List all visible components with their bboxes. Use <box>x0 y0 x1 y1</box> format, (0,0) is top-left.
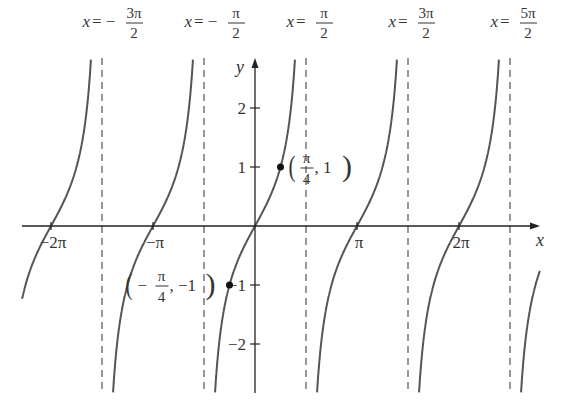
point-label: (π4, 1) <box>289 149 353 187</box>
asymptote-label-num: 5π <box>520 5 536 21</box>
asymptote-label: x = π2 <box>285 5 333 41</box>
svg-text:−: − <box>137 276 147 295</box>
asymptote-label-lhs: x <box>285 12 294 31</box>
svg-text:): ) <box>205 267 215 301</box>
svg-text:π: π <box>303 150 311 166</box>
asymptote-label-num: 3π <box>126 5 142 21</box>
svg-text:, −1: , −1 <box>169 276 196 295</box>
svg-text:(: ( <box>125 267 132 301</box>
asymptote-label-den: 2 <box>422 25 430 41</box>
tangent-branch <box>521 271 540 393</box>
asymptote-label: x = 5π2 <box>489 5 537 41</box>
asymptote-label-den: 2 <box>232 25 240 41</box>
asymptote-label-den: 2 <box>524 25 532 41</box>
y-axis-label: y <box>234 57 244 77</box>
y-tick-label: 2 <box>238 99 247 118</box>
x-tick-label: 2π <box>452 233 470 252</box>
y-axis-arrow-icon <box>252 58 259 68</box>
svg-text:π: π <box>158 268 166 284</box>
labels: x = −3π2x = −π2x = π2x = 3π2x = 5π2−2π−π… <box>40 5 544 354</box>
x-tick-label: π <box>355 233 364 252</box>
svg-text:=: = <box>500 12 510 31</box>
x-axis-arrow-icon <box>530 223 540 230</box>
svg-text:=: = <box>398 12 408 31</box>
svg-text:): ) <box>342 149 352 183</box>
svg-text:(: ( <box>289 149 296 183</box>
tangent-graph: x = −3π2x = −π2x = π2x = 3π2x = 5π2−2π−π… <box>0 0 562 410</box>
asymptote-label-num: 3π <box>418 5 434 21</box>
svg-text:=: = <box>296 12 306 31</box>
svg-text:, 1: , 1 <box>315 158 332 177</box>
point-marker <box>226 282 233 289</box>
x-axis-label: x <box>535 230 544 250</box>
asymptote-label-num: π <box>320 5 328 21</box>
asymptote-label-den: 2 <box>320 25 328 41</box>
svg-text:= −: = − <box>194 12 217 31</box>
axes <box>22 58 540 393</box>
svg-text:= −: = − <box>92 12 115 31</box>
asymptote-label-lhs: x <box>81 12 90 31</box>
asymptote-label-num: π <box>232 5 240 21</box>
point-marker <box>277 164 284 171</box>
y-tick-label: −2 <box>228 335 246 354</box>
svg-text:4: 4 <box>158 289 166 305</box>
x-tick-label: −π <box>146 233 165 252</box>
svg-text:4: 4 <box>303 171 311 187</box>
asymptote-label: x = −3π2 <box>81 5 143 41</box>
asymptote-label-lhs: x <box>387 12 396 31</box>
asymptote-label: x = 3π2 <box>387 5 435 41</box>
point-label: (−π4, −1) <box>125 267 215 305</box>
asymptote-label: x = −π2 <box>183 5 245 41</box>
asymptote-label-den: 2 <box>130 25 138 41</box>
y-tick-label: 1 <box>238 158 247 177</box>
x-tick-label: −2π <box>40 233 67 252</box>
tangent-branch <box>22 60 91 299</box>
asymptote-label-lhs: x <box>183 12 192 31</box>
asymptote-label-lhs: x <box>489 12 498 31</box>
